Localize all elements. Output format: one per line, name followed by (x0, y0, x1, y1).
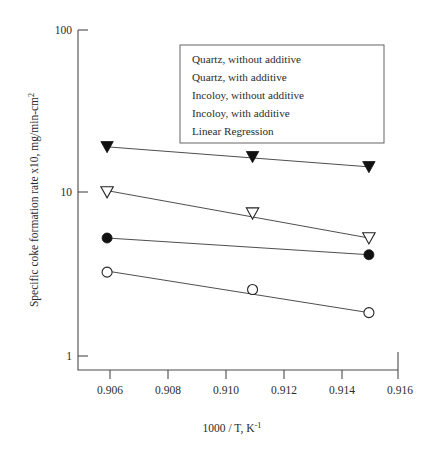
legend-item-incoloy-with-additive: Incoloy, with additive (192, 107, 290, 119)
data-point-3-2 (364, 308, 374, 318)
series-layer (101, 142, 375, 318)
svg-text:Specific coke formation rate x: Specific coke formation rate x10, mg/min… (27, 93, 41, 307)
series-1 (101, 187, 375, 244)
data-point-3-0 (102, 267, 112, 277)
data-point-2-0 (102, 233, 112, 243)
x-tick-label-3: 0.912 (271, 384, 297, 396)
y-axis-title: Specific coke formation rate x10, mg/min… (27, 93, 41, 307)
y-axis-title-main: Specific coke formation rate x10, mg/min… (28, 97, 41, 307)
regression-line-1 (107, 191, 369, 238)
regression-line-0 (107, 147, 369, 167)
y-tick-label-10: 10 (61, 186, 73, 198)
legend-item-incoloy-without-additive: Incoloy, without additive (192, 89, 304, 101)
svg-text:1000 / T, K-1: 1000 / T, K-1 (203, 421, 262, 435)
data-point-3-1 (248, 285, 258, 295)
legend: Quartz, without additive Quartz, with ad… (180, 45, 384, 143)
legend-item-quartz-without-additive: Quartz, without additive (192, 53, 301, 65)
y-axis-title-superscript: 2 (27, 93, 36, 97)
x-tick-label-4: 0.914 (329, 384, 355, 396)
legend-item-linear-regression: Linear Regression (192, 125, 274, 137)
x-tick-label-0: 0.906 (97, 384, 123, 396)
data-point-0-1 (246, 151, 258, 162)
y-tick-label-100: 100 (55, 24, 73, 36)
regression-line-2 (107, 238, 369, 255)
y-axis-tick-labels: 100 10 1 (55, 24, 73, 362)
series-3 (102, 267, 374, 317)
x-axis-ticks (110, 370, 398, 379)
series-0 (101, 142, 375, 173)
y-tick-label-1: 1 (66, 350, 72, 362)
legend-item-quartz-with-additive: Quartz, with additive (192, 71, 287, 83)
data-point-0-2 (363, 162, 375, 173)
data-point-2-1 (364, 250, 374, 260)
x-axis-title-superscript: -1 (255, 421, 262, 430)
x-axis-tick-labels: 0.906 0.908 0.910 0.912 0.914 0.916 (97, 384, 413, 396)
x-tick-label-2: 0.910 (213, 384, 239, 396)
series-2 (102, 233, 374, 260)
x-tick-label-1: 0.908 (155, 384, 181, 396)
data-point-1-2 (363, 233, 375, 244)
coke-formation-rate-chart: 100 10 1 Specific coke formation rate x1… (0, 0, 438, 453)
x-axis-title: 1000 / T, K-1 (203, 421, 262, 435)
data-point-1-0 (101, 187, 113, 198)
regression-line-3 (107, 271, 369, 313)
x-axis-title-main: 1000 / T, K (203, 422, 256, 435)
y-axis-ticks (78, 30, 88, 356)
x-tick-label-5: 0.916 (387, 384, 413, 396)
